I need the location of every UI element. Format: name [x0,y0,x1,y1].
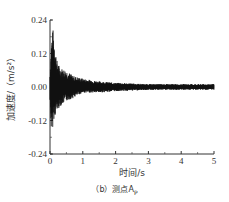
acceleration-chart: -0.24-0.120.000.120.24012345 加速度/（m/s²） … [0,0,229,202]
y-tick-label: -0.12 [28,116,47,126]
figure-caption: （b）测点AP [0,183,229,196]
acceleration-trace [50,31,214,127]
y-tick-label: 0.24 [31,15,47,25]
y-tick-label: 0.00 [31,82,47,92]
x-axis-title: 时间/s [119,167,145,178]
x-tick-label: 4 [179,156,184,166]
x-tick-label: 1 [81,156,86,166]
caption-text: （b）测点A [91,185,134,194]
y-tick-label: -0.24 [28,149,47,159]
y-tick-label: 0.12 [31,49,47,59]
x-tick-label: 5 [212,156,217,166]
caption-subscript: P [134,189,138,196]
x-tick-label: 0 [48,156,53,166]
x-tick-label: 2 [113,156,118,166]
signal-line [50,31,214,127]
y-axis-title: 加速度/（m/s²） [5,53,16,121]
x-tick-label: 3 [146,156,151,166]
